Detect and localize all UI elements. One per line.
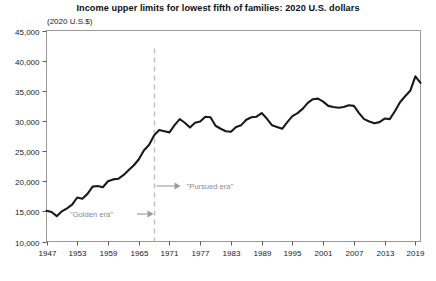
x-tick-label: 1953	[69, 249, 87, 258]
x-tick-label: 2019	[407, 249, 425, 258]
x-tick-label: 1995	[284, 249, 302, 258]
y-tick-label: 20,000	[15, 178, 40, 187]
x-tick-label: 2001	[315, 249, 333, 258]
x-tick-label: 1971	[161, 249, 179, 258]
y-tick-label: 30,000	[15, 118, 40, 127]
y-axis-labels: 10,00015,00020,00025,00030,00035,00040,0…	[15, 28, 40, 248]
x-tick-label: 1959	[100, 249, 118, 258]
y-tick-label: 35,000	[15, 88, 40, 97]
y-tick-label: 25,000	[15, 148, 40, 157]
y-tick-label: 10,000	[15, 239, 40, 248]
y-tick-label: 15,000	[15, 208, 40, 217]
x-tick-label: 1977	[192, 249, 210, 258]
golden-era-label: "Golden era"	[70, 210, 113, 219]
x-tick-label: 2013	[377, 249, 395, 258]
chart-figure: Income upper limits for lowest fifth of …	[0, 0, 436, 281]
x-tick-label: 1965	[131, 249, 149, 258]
x-tick-label: 1947	[39, 249, 57, 258]
x-tick-label: 2007	[346, 249, 364, 258]
y-tick-label: 40,000	[15, 58, 40, 67]
chart-plot-area: 10,00015,00020,00025,00030,00035,00040,0…	[0, 0, 436, 281]
x-tick-label: 1989	[254, 249, 272, 258]
x-axis-labels: 1947195319591965197119771983198919952001…	[39, 249, 425, 258]
x-tick-label: 1983	[223, 249, 241, 258]
y-tick-label: 45,000	[15, 28, 40, 37]
pursued-era-label: "Pursued era"	[187, 182, 234, 191]
x-axis-ticks	[48, 242, 416, 246]
